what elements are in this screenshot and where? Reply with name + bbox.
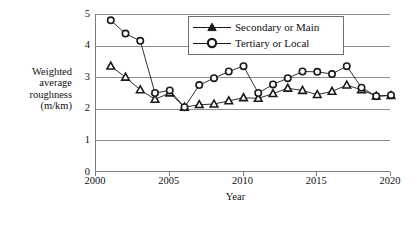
- data-point: [373, 93, 379, 99]
- data-point: [314, 69, 320, 75]
- x-tick-label-2000: 2000: [75, 176, 115, 187]
- data-point: [136, 86, 144, 93]
- x-tick-label-2005: 2005: [149, 176, 189, 187]
- y-tick-label-4: 4: [72, 40, 90, 51]
- x-tick-label-2020: 2020: [370, 176, 410, 187]
- data-point: [240, 94, 248, 101]
- data-point: [122, 73, 130, 80]
- data-point: [211, 75, 217, 81]
- y-axis-title: Weighted average roughness (m/km): [4, 66, 72, 112]
- data-point: [196, 82, 202, 88]
- data-point: [181, 104, 187, 110]
- legend-item-tertiary-or-local: Tertiary or Local: [193, 35, 339, 51]
- data-point: [107, 62, 115, 69]
- legend-marker-triangle-icon: [193, 21, 231, 33]
- data-point: [328, 87, 336, 94]
- data-point: [226, 68, 232, 74]
- data-point: [299, 68, 305, 74]
- x-axis-title-text: Year: [226, 191, 245, 202]
- x-tick-label-2010: 2010: [223, 176, 263, 187]
- data-point: [344, 63, 350, 69]
- data-point: [152, 90, 158, 96]
- roughness-line-chart: Weighted average roughness (m/km) 5 4 3 …: [0, 0, 419, 226]
- data-point: [210, 100, 218, 107]
- legend-label-tertiary-or-local: Tertiary or Local: [231, 37, 309, 49]
- data-point: [225, 97, 233, 104]
- legend-marker-circle-icon: [193, 37, 231, 49]
- legend-item-secondary-or-main: Secondary or Main: [193, 19, 339, 35]
- data-point: [284, 84, 292, 91]
- chart-legend: Secondary or Main Tertiary or Local: [188, 16, 344, 55]
- data-point: [313, 91, 321, 98]
- data-point: [137, 38, 143, 44]
- legend-label-secondary-or-main: Secondary or Main: [231, 21, 319, 33]
- data-point: [358, 84, 364, 90]
- data-point: [255, 90, 261, 96]
- data-point: [195, 101, 203, 108]
- y-tick-label-1: 1: [72, 135, 90, 146]
- data-point: [122, 30, 128, 36]
- x-axis-title: Year: [0, 192, 419, 203]
- data-point: [167, 87, 173, 93]
- y-tick-label-5: 5: [72, 9, 90, 20]
- data-point: [108, 17, 114, 23]
- series-triangle: [107, 62, 395, 110]
- data-point: [388, 92, 394, 98]
- x-tick-label-2015: 2015: [296, 176, 336, 187]
- data-point: [269, 90, 277, 97]
- y-tick-label-3: 3: [72, 72, 90, 83]
- data-point: [329, 71, 335, 77]
- y-tick-label-2: 2: [72, 103, 90, 114]
- data-point: [240, 63, 246, 69]
- data-point: [270, 81, 276, 87]
- data-point: [343, 81, 351, 88]
- data-point: [299, 86, 307, 93]
- data-point: [285, 75, 291, 81]
